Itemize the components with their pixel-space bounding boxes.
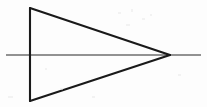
figure-canvas [0, 0, 207, 107]
geometry-diagram [0, 0, 207, 107]
